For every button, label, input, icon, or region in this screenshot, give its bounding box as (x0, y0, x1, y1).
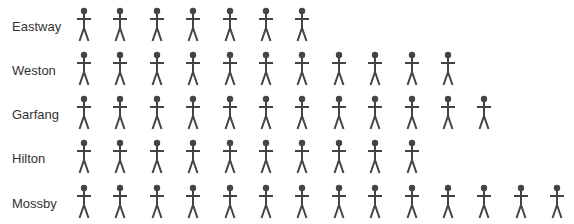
person-icon (75, 139, 93, 175)
person-icon (403, 95, 421, 131)
person-icon (548, 184, 566, 220)
person-icon (111, 51, 129, 87)
person-icon (293, 7, 311, 43)
person-icon (293, 51, 311, 87)
person-icon (221, 7, 239, 43)
person-icon (184, 184, 202, 220)
person-icon (293, 184, 311, 220)
person-icon (75, 7, 93, 43)
person-icon (111, 184, 129, 220)
person-icon (111, 139, 129, 175)
person-icon (330, 139, 348, 175)
person-icon (257, 51, 275, 87)
person-icon (366, 139, 384, 175)
person-icon (148, 139, 166, 175)
person-icon (257, 7, 275, 43)
person-icon (439, 51, 457, 87)
person-icon (257, 184, 275, 220)
icon-group (0, 139, 574, 179)
person-icon (366, 184, 384, 220)
person-icon (221, 139, 239, 175)
person-icon (439, 95, 457, 131)
person-icon (111, 7, 129, 43)
chart-row: Hilton (0, 139, 574, 179)
icon-group (0, 184, 574, 224)
person-icon (475, 184, 493, 220)
person-icon (184, 139, 202, 175)
icon-group (0, 95, 574, 135)
person-icon (439, 184, 457, 220)
person-icon (330, 184, 348, 220)
person-icon (257, 95, 275, 131)
chart-row: Eastway (0, 7, 574, 47)
person-icon (221, 95, 239, 131)
icon-group (0, 7, 574, 47)
person-icon (184, 7, 202, 43)
person-icon (148, 95, 166, 131)
person-icon (330, 95, 348, 131)
person-icon (366, 51, 384, 87)
person-icon (184, 95, 202, 131)
person-icon (403, 51, 421, 87)
chart-title-cutoff (0, 0, 574, 3)
person-icon (184, 51, 202, 87)
chart-row: Mossby (0, 184, 574, 224)
icon-group (0, 51, 574, 91)
person-icon (403, 139, 421, 175)
person-icon (148, 7, 166, 43)
person-icon (330, 51, 348, 87)
person-icon (366, 95, 384, 131)
chart-row: Weston (0, 51, 574, 91)
person-icon (257, 139, 275, 175)
person-icon (148, 51, 166, 87)
person-icon (221, 51, 239, 87)
person-icon (75, 51, 93, 87)
person-icon (75, 184, 93, 220)
person-icon (512, 184, 530, 220)
person-icon (293, 95, 311, 131)
person-icon (221, 184, 239, 220)
person-icon (75, 95, 93, 131)
person-icon (148, 184, 166, 220)
person-icon (475, 95, 493, 131)
person-icon (293, 139, 311, 175)
person-icon (403, 184, 421, 220)
person-icon (111, 95, 129, 131)
chart-row: Garfang (0, 95, 574, 135)
